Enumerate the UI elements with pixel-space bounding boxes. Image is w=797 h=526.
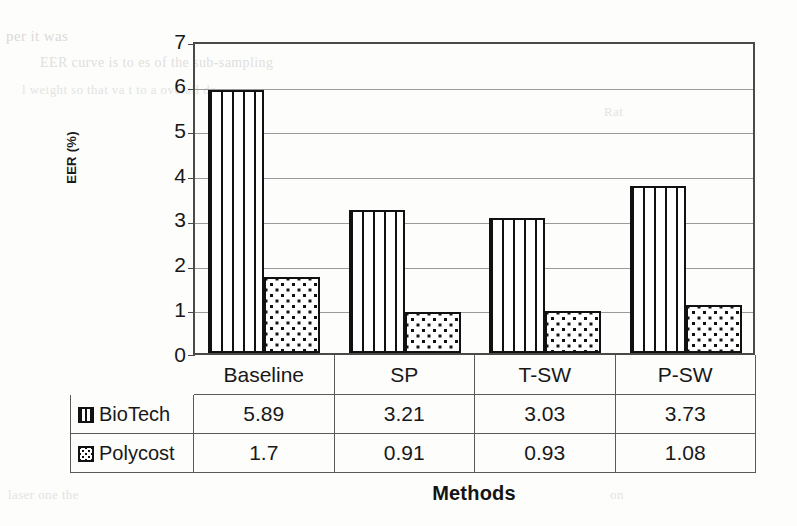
bar-biotech-baseline[interactable] <box>208 90 264 353</box>
y-tickmark-1 <box>188 312 195 313</box>
y-tickmark-5 <box>188 133 195 134</box>
y-tick-label: 5 <box>158 119 186 143</box>
chart-page: per it was EER curve is to es of the sub… <box>0 0 797 526</box>
legend-label-polycost: Polycost <box>99 442 175 464</box>
table-cell-polycost-baseline: 1.7 <box>194 434 335 473</box>
y-tick-label: 1 <box>158 298 186 322</box>
bar-group-t-sw <box>476 44 617 353</box>
table-cell-polycost-t-sw: 0.93 <box>475 434 616 473</box>
y-tick-label: 2 <box>158 253 186 277</box>
scan-artifact-text: l weight so that va t to a overall de <box>22 82 216 98</box>
table-row: Polycost 1.7 0.91 0.93 1.08 <box>71 434 756 473</box>
table-cell-biotech-sp: 3.21 <box>334 395 475 434</box>
x-axis-title: Methods <box>193 482 755 505</box>
y-tick-label: 3 <box>158 208 186 232</box>
bar-group-p-sw <box>617 44 758 353</box>
bar-biotech-sp[interactable] <box>349 210 405 354</box>
category-label-baseline: Baseline <box>194 356 335 395</box>
y-tick-label: 7 <box>158 30 186 54</box>
bar-group-sp <box>336 44 477 353</box>
legend-item-polycost[interactable]: Polycost <box>71 434 194 473</box>
y-tickmark-7 <box>188 44 195 45</box>
y-tick-label: 4 <box>158 164 186 188</box>
scan-artifact-text: laser one the <box>8 487 79 503</box>
dots-swatch-icon <box>78 446 94 462</box>
table-header-row: Baseline SP T-SW P-SW <box>71 356 756 395</box>
bar-polycost-baseline[interactable] <box>264 277 320 353</box>
data-table: Baseline SP T-SW P-SW BioTech 5.89 3.21 … <box>70 355 756 473</box>
table-row: BioTech 5.89 3.21 3.03 3.73 <box>71 395 756 434</box>
bar-polycost-sp[interactable] <box>405 312 461 353</box>
legend-label-biotech: BioTech <box>99 403 170 425</box>
y-tick-label: 6 <box>158 74 186 98</box>
category-label-p-sw: P-SW <box>615 356 756 395</box>
vertical-stripes-swatch-icon <box>78 407 94 423</box>
bar-group-baseline <box>195 44 336 353</box>
table-cell-biotech-p-sw: 3.73 <box>615 395 756 434</box>
y-tickmark-4 <box>188 178 195 179</box>
table-cell-biotech-t-sw: 3.03 <box>475 395 616 434</box>
scan-artifact-text: per it was <box>6 28 68 45</box>
legend-item-biotech[interactable]: BioTech <box>71 395 194 434</box>
y-tickmark-3 <box>188 223 195 224</box>
y-axis-title: EER (%) <box>64 123 79 193</box>
bar-biotech-p-sw[interactable] <box>630 186 686 353</box>
table-cell-polycost-sp: 0.91 <box>334 434 475 473</box>
bar-polycost-p-sw[interactable] <box>686 305 742 353</box>
table-cell-biotech-baseline: 5.89 <box>194 395 335 434</box>
bar-biotech-t-sw[interactable] <box>489 218 545 354</box>
category-label-sp: SP <box>334 356 475 395</box>
table-corner-cell <box>71 356 194 395</box>
plot-area <box>193 42 755 355</box>
bar-polycost-t-sw[interactable] <box>545 311 601 353</box>
category-label-t-sw: T-SW <box>475 356 616 395</box>
y-tickmark-2 <box>188 268 195 269</box>
table-cell-polycost-p-sw: 1.08 <box>615 434 756 473</box>
y-tickmark-6 <box>188 89 195 90</box>
